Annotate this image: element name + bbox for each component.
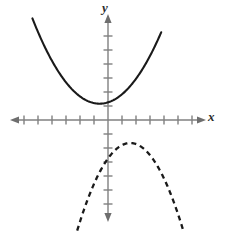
x-axis-arrow-left [10, 116, 19, 123]
y-axis-label: y [102, 1, 108, 14]
dashed-parabola-curve [77, 143, 183, 232]
graph-figure: y x [0, 0, 225, 234]
y-axis-group [104, 14, 113, 222]
y-axis-arrow-up [104, 14, 111, 23]
x-axis-label: x [208, 110, 215, 123]
x-axis-arrow-right [197, 116, 206, 123]
coordinate-plane-svg [0, 0, 225, 234]
y-axis-arrow-down [104, 213, 111, 222]
solid-parabola-curve [32, 18, 161, 103]
